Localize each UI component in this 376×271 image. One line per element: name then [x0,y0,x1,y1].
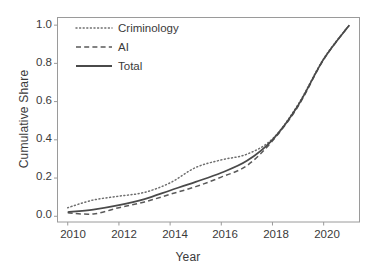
y-tick-label: 1.0 [18,18,52,30]
x-axis-title: Year [0,250,376,264]
legend-label-total: Total [118,60,142,72]
chart-figure: 1.0 0.8 0.6 0.4 0.2 0.0 2010 2012 2014 2… [0,0,376,271]
legend-label-criminology: Criminology [118,22,179,34]
y-tick-label: 0.0 [18,208,52,220]
y-axis-title: Cumulative Share [17,44,31,194]
x-tick-label: 2014 [152,228,198,240]
x-tick-label: 2018 [253,228,299,240]
x-tick-label: 2010 [50,228,96,240]
legend-label-ai: AI [118,41,129,53]
x-tick-label: 2012 [101,228,147,240]
x-tick-label: 2020 [304,228,350,240]
x-tick-label: 2016 [202,228,248,240]
